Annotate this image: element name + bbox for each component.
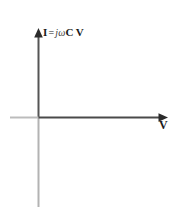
voltage-symbol-in-equation: V bbox=[76, 26, 84, 38]
capacitor-phasor-axes-figure: I=jωCV V bbox=[0, 0, 175, 217]
axes-drawing bbox=[0, 0, 175, 217]
horizontal-axis-label: V bbox=[159, 119, 168, 132]
vertical-axis-label: I=jωCV bbox=[43, 26, 84, 39]
omega-symbol: ω bbox=[58, 27, 65, 38]
vertical-axis-arrowhead-icon bbox=[34, 28, 43, 38]
capacitance-symbol: C bbox=[66, 26, 74, 38]
